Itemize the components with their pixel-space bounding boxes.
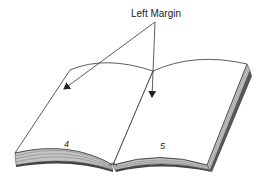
open-book-diagram: Left Margin 4 5 (0, 0, 263, 183)
page-number-left: 4 (64, 139, 69, 149)
left-margin-label: Left Margin (131, 8, 181, 19)
page-number-right: 5 (160, 141, 165, 151)
book-illustration (0, 0, 263, 183)
